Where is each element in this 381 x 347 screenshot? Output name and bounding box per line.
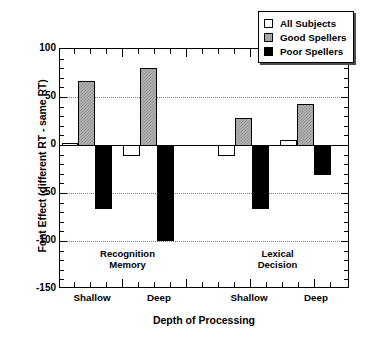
- legend-swatch-poor-spellers-icon: [264, 47, 273, 56]
- y-tick-label-100: 100: [22, 43, 56, 53]
- right-tick-major: [341, 241, 348, 242]
- bottom-tick-major: [186, 279, 187, 287]
- bottom-tick: [234, 282, 235, 287]
- left-tick: [60, 174, 64, 175]
- bottom-tick: [154, 282, 155, 287]
- plot-area: Recognition Memory Lexical Decision: [59, 48, 349, 288]
- left-tick: [60, 164, 64, 165]
- gridline-neg100: [60, 241, 348, 242]
- top-tick-major: [250, 49, 251, 57]
- right-tick: [344, 107, 348, 108]
- right-tick: [344, 203, 348, 204]
- left-tick: [60, 59, 64, 60]
- bar-all-subjects-lexical-deep: [280, 140, 297, 146]
- left-tick: [60, 279, 64, 280]
- left-tick: [60, 107, 64, 108]
- bar-good-spellers-lexical-shallow: [235, 118, 252, 146]
- left-tick: [60, 270, 64, 271]
- top-tick-major: [122, 49, 123, 57]
- top-tick: [106, 49, 107, 54]
- bar-all-subjects-recognition-deep: [123, 145, 140, 156]
- bottom-tick: [298, 282, 299, 287]
- legend-label-all-subjects: All Subjects: [280, 18, 336, 29]
- left-tick: [60, 155, 64, 156]
- right-tick: [344, 68, 348, 69]
- top-tick: [218, 49, 219, 54]
- bar-poor-spellers-lexical-deep: [314, 145, 331, 175]
- bar-poor-spellers-lexical-shallow: [252, 145, 269, 209]
- legend-swatch-good-spellers-icon: [264, 33, 273, 42]
- top-tick: [202, 49, 203, 54]
- bar-poor-spellers-recognition-deep: [157, 145, 174, 241]
- bar-all-subjects-lexical-shallow: [218, 145, 235, 156]
- bottom-tick: [74, 282, 75, 287]
- bottom-tick: [282, 282, 283, 287]
- right-tick: [344, 78, 348, 79]
- right-tick-major: [341, 145, 348, 146]
- right-tick-major: [341, 193, 348, 194]
- right-tick: [344, 212, 348, 213]
- bottom-tick-major: [314, 279, 315, 287]
- group-label-line1: Lexical: [235, 248, 320, 259]
- left-tick: [60, 260, 64, 261]
- right-tick: [344, 126, 348, 127]
- right-tick: [344, 279, 348, 280]
- left-tick: [60, 203, 64, 204]
- right-tick: [344, 270, 348, 271]
- bar-good-spellers-recognition-deep: [140, 68, 157, 146]
- left-tick: [60, 135, 64, 136]
- bar-all-subjects-recognition-shallow: [62, 143, 78, 146]
- bottom-tick-major: [122, 279, 123, 287]
- left-tick: [60, 116, 64, 117]
- left-tick: [60, 231, 64, 232]
- left-tick-major: [60, 241, 67, 242]
- bottom-tick: [330, 282, 331, 287]
- x-tick-label-lexical-shallow: Shallow: [219, 292, 279, 303]
- left-tick: [60, 183, 64, 184]
- bottom-tick: [106, 282, 107, 287]
- group-label-line2: Memory: [80, 259, 175, 270]
- bar-good-spellers-lexical-deep: [297, 104, 314, 146]
- group-label-lexical-decision: Lexical Decision: [235, 248, 320, 270]
- right-tick: [344, 231, 348, 232]
- legend-label-poor-spellers: Poor Spellers: [280, 46, 343, 57]
- right-tick: [344, 116, 348, 117]
- gridline-50: [60, 97, 348, 98]
- top-tick: [154, 49, 155, 54]
- left-tick: [60, 68, 64, 69]
- bottom-tick: [90, 282, 91, 287]
- right-tick: [344, 155, 348, 156]
- bar-poor-spellers-recognition-shallow: [95, 145, 112, 209]
- y-tick-label-0: 0: [22, 139, 56, 149]
- right-tick: [344, 174, 348, 175]
- bottom-tick: [202, 282, 203, 287]
- group-label-line1: Recognition: [80, 248, 175, 259]
- bottom-tick-major: [250, 279, 251, 287]
- right-tick: [344, 183, 348, 184]
- left-tick: [60, 222, 64, 223]
- left-tick: [60, 212, 64, 213]
- left-tick: [60, 78, 64, 79]
- right-tick: [344, 135, 348, 136]
- left-tick-major: [60, 193, 67, 194]
- bottom-tick: [218, 282, 219, 287]
- bar-good-spellers-recognition-shallow: [78, 81, 95, 146]
- right-tick: [344, 260, 348, 261]
- top-tick: [138, 49, 139, 54]
- x-tick-label-recognition-shallow: Shallow: [62, 292, 122, 303]
- y-tick-label-neg150: -150: [22, 283, 56, 293]
- bottom-tick: [138, 282, 139, 287]
- bottom-tick: [170, 282, 171, 287]
- group-label-recognition-memory: Recognition Memory: [80, 248, 175, 270]
- left-tick: [60, 251, 64, 252]
- top-tick: [170, 49, 171, 54]
- y-tick-label-50: 50: [22, 91, 56, 101]
- y-tick-label-group: 100 50 0 -50 -100 -150: [12, 0, 56, 347]
- legend-label-good-spellers: Good Spellers: [280, 32, 346, 43]
- x-tick-label-recognition-deep: Deep: [129, 292, 189, 303]
- right-tick: [344, 164, 348, 165]
- right-tick: [344, 222, 348, 223]
- x-tick-label-lexical-deep: Deep: [286, 292, 346, 303]
- y-tick-label-neg50: -50: [22, 187, 56, 197]
- bar-chart-figure: Font Effect (different RT - same RT) 100…: [0, 0, 381, 347]
